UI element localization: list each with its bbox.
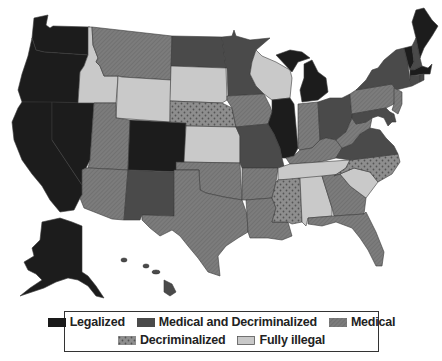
legend-row-1: Legalized Medical and Decriminalized Med…: [65, 315, 378, 329]
legend-label: Medical: [351, 315, 395, 329]
fully-illegal-swatch-icon: [237, 336, 255, 345]
map-legend: Legalized Medical and Decriminalized Med…: [64, 311, 379, 352]
state-WY[interactable]: [116, 76, 171, 122]
state-SD[interactable]: [170, 66, 227, 103]
medical-swatch-icon: [329, 318, 347, 327]
legend-label: Decriminalized: [140, 333, 225, 347]
state-MS[interactable]: [272, 178, 302, 224]
state-HI[interactable]: [121, 258, 176, 296]
legend-item-medical: Medical: [329, 315, 395, 329]
legend-label: Medical and Decriminalized: [159, 315, 317, 329]
hi-island-kauai: [121, 258, 127, 262]
legalized-swatch-icon: [48, 318, 66, 327]
state-IN[interactable]: [298, 102, 320, 150]
legend-item-medical-decriminalized: Medical and Decriminalized: [137, 315, 317, 329]
state-NM[interactable]: [124, 170, 176, 220]
state-ND[interactable]: [171, 36, 226, 68]
state-RI[interactable]: [420, 74, 424, 82]
state-MT[interactable]: [92, 27, 172, 80]
hi-island-big: [164, 280, 176, 296]
hi-island-maui: [152, 270, 160, 274]
legend-item-fully-illegal: Fully illegal: [237, 333, 324, 347]
medical-decriminalized-swatch-icon: [137, 318, 155, 327]
legend-item-legalized: Legalized: [48, 315, 125, 329]
state-AZ[interactable]: [80, 168, 128, 220]
state-WA[interactable]: [32, 15, 90, 55]
legend-item-decriminalized: Decriminalized: [118, 333, 225, 347]
state-NY[interactable]: [356, 48, 412, 90]
us-map: [0, 0, 442, 361]
legend-label: Fully illegal: [259, 333, 324, 347]
state-KS[interactable]: [184, 126, 240, 163]
state-CT[interactable]: [410, 75, 420, 86]
state-FL[interactable]: [308, 212, 384, 266]
legend-row-2: Decriminalized Fully illegal: [65, 333, 378, 347]
hi-island-oahu: [143, 264, 149, 268]
legend-label: Legalized: [70, 315, 125, 329]
decriminalized-swatch-icon: [118, 336, 136, 345]
state-AK[interactable]: [20, 218, 104, 298]
